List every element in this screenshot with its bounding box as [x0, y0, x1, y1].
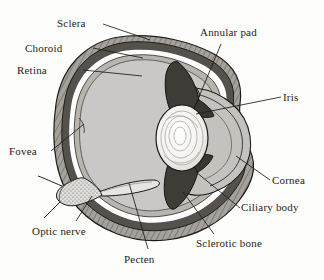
label-fovea: Fovea	[9, 145, 37, 157]
label-choroid: Choroid	[25, 42, 62, 54]
label-cornea: Cornea	[272, 174, 305, 186]
lens-group	[156, 105, 208, 171]
optic-nerve-upper-edge	[38, 176, 62, 186]
label-sclera: Sclera	[57, 17, 86, 29]
label-sclerotic-bone: Sclerotic bone	[196, 237, 262, 249]
label-ciliary-body: Ciliary body	[241, 201, 299, 213]
label-optic-nerve: Optic nerve	[32, 225, 86, 237]
lens-shape	[156, 105, 208, 171]
eye-diagram-figure: ScleraChoroidRetinaAnnular padIrisFoveaC…	[0, 0, 324, 280]
label-pecten: Pecten	[124, 253, 155, 265]
label-annular-pad: Annular pad	[200, 26, 257, 38]
label-retina: Retina	[17, 64, 47, 76]
optic-nerve-lower-edge	[44, 202, 60, 218]
label-iris: Iris	[283, 91, 298, 103]
